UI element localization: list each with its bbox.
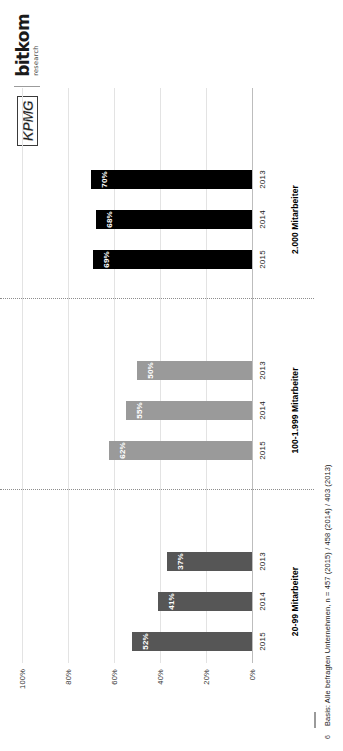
footnote-basis: Basis: Alle befragten Unternehmen, n = 4… [323, 464, 332, 726]
bar-value-label: 50% [146, 361, 155, 380]
bar [109, 441, 252, 460]
bitkom-logo-subtext: research [33, 45, 40, 76]
bar-value-label: 68% [105, 210, 114, 229]
y-axis-tick-label: 80% [64, 669, 73, 703]
x-axis-category-label: 2015 [258, 240, 267, 280]
gridline [22, 88, 23, 663]
bar [126, 401, 253, 420]
x-axis-category-label: 2013 [258, 542, 267, 582]
bitkom-logo-text: bitkom [15, 14, 32, 77]
group-label: 2.000 Mitarbeiter [290, 140, 300, 300]
logo-divider [14, 86, 40, 87]
bar-chart-plot-area: 0%20%40%60%80%100%52%201541%201437%20132… [22, 88, 252, 663]
x-axis-category-label: 2014 [258, 391, 267, 431]
x-axis-category-label: 2013 [258, 160, 267, 200]
bar [96, 210, 252, 229]
y-axis-tick-label: 40% [156, 669, 165, 703]
x-axis-category-label: 2015 [258, 431, 267, 471]
x-axis-category-label: 2013 [258, 351, 267, 391]
y-axis-tick-label: 60% [110, 669, 119, 703]
bar-value-label: 69% [102, 250, 111, 269]
x-axis-category-label: 2014 [258, 200, 267, 240]
x-axis-category-label: 2015 [258, 622, 267, 662]
gridline [68, 88, 69, 663]
footer-rule [314, 712, 316, 728]
y-axis-tick-label: 20% [202, 669, 211, 703]
group-label: 20-99 Mitarbeiter [290, 522, 300, 682]
bar-value-label: 52% [141, 632, 150, 651]
bar-value-label: 37% [176, 552, 185, 571]
axis-baseline [252, 88, 253, 663]
bitkom-research-logo: bitkom research [15, 14, 40, 77]
bar-value-label: 70% [100, 170, 109, 189]
slide-canvas: KPMG bitkom research 0%20%40%60%80%100%5… [0, 0, 343, 751]
bar [93, 250, 252, 269]
y-axis-tick-label: 100% [18, 669, 27, 703]
x-axis-category-label: 2014 [258, 582, 267, 622]
bar-value-label: 55% [135, 401, 144, 420]
page-number: 6 [324, 735, 331, 739]
y-axis-tick-label: 0% [248, 669, 257, 703]
bar [91, 170, 252, 189]
slide-rotation-wrapper: KPMG bitkom research 0%20%40%60%80%100%5… [0, 0, 343, 751]
group-separator [0, 298, 314, 299]
bar-value-label: 41% [167, 592, 176, 611]
group-label: 100-1.999 Mitarbeiter [290, 331, 300, 491]
group-separator [0, 489, 314, 490]
bar-value-label: 62% [118, 441, 127, 460]
